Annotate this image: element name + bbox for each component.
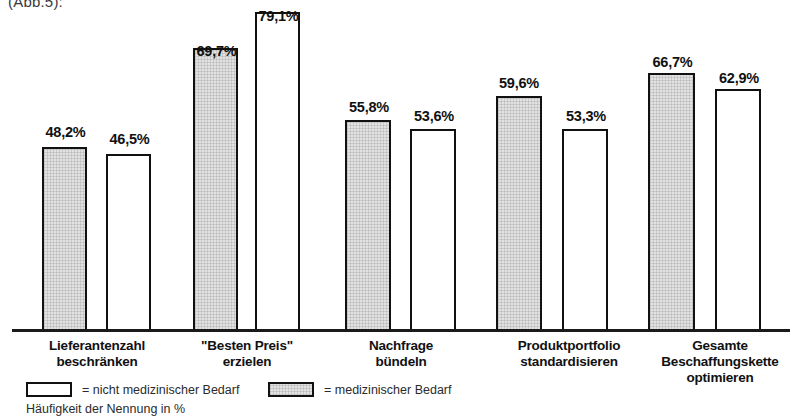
bar [255, 12, 300, 332]
bar [715, 89, 761, 332]
x-axis-baseline [12, 329, 790, 332]
plot-area: 48,2%46,5%69,7%79,1%55,8%53,6%59,6%53,3%… [0, 0, 800, 332]
chart-legend: = nicht medizinischer Bedarf = medizinis… [0, 380, 800, 419]
category-label: Nachfragebündeln [330, 338, 472, 370]
category-label-line: Beschaffungskette [640, 354, 800, 370]
bar-value-label: 62,9% [711, 70, 767, 86]
bar [410, 129, 456, 332]
bar [496, 96, 542, 332]
bar-chart-figure: (Abb.5): 48,2%46,5%69,7%79,1%55,8%53,6%5… [0, 0, 800, 419]
bar [562, 129, 608, 332]
bar-value-label: 55,8% [341, 99, 397, 115]
bar [193, 48, 238, 332]
bar [345, 120, 391, 332]
legend-label-medizinischer-bedarf: = medizinischer Bedarf [324, 383, 452, 397]
category-label-line: Produktportfolio [470, 338, 668, 354]
bar-value-label: 59,6% [491, 75, 547, 91]
legend-swatch-white-icon [26, 382, 72, 397]
category-label: GesamteBeschaffungsketteoptimieren [640, 338, 800, 386]
legend-label-nicht-medizinischer-bedarf: = nicht medizinischer Bedarf [82, 383, 239, 397]
category-label-line: Nachfrage [330, 338, 472, 354]
legend-entry-nicht-medizinischer-bedarf: = nicht medizinischer Bedarf [26, 382, 239, 397]
bar-value-label: 69,7% [189, 43, 244, 59]
category-label-line: Lieferantenzahl [0, 338, 194, 354]
bar-value-label: 53,3% [558, 108, 614, 124]
category-label-line: standardisieren [470, 354, 668, 370]
bar [648, 73, 695, 332]
legend-swatch-gray-icon [268, 382, 314, 397]
axis-note: Häufigkeit der Nennung in % [26, 402, 185, 416]
bar-value-label: 79,1% [251, 8, 306, 24]
bar [42, 147, 87, 332]
category-label-line: beschränken [0, 354, 194, 370]
bar-value-label: 66,7% [644, 54, 701, 70]
bar [106, 154, 151, 332]
category-label-line: bündeln [330, 354, 472, 370]
category-label-line: Gesamte [640, 338, 800, 354]
category-label: Produktportfoliostandardisieren [470, 338, 668, 370]
bar-value-label: 48,2% [38, 124, 93, 140]
category-label-line: "Besten Preis" [177, 338, 317, 354]
category-label: "Besten Preis"erzielen [177, 338, 317, 370]
bar-value-label: 46,5% [102, 131, 157, 147]
legend-entry-medizinischer-bedarf: = medizinischer Bedarf [268, 382, 452, 397]
bar-value-label: 53,6% [406, 108, 462, 124]
category-label: Lieferantenzahlbeschränken [0, 338, 194, 370]
category-label-line: erzielen [177, 354, 317, 370]
